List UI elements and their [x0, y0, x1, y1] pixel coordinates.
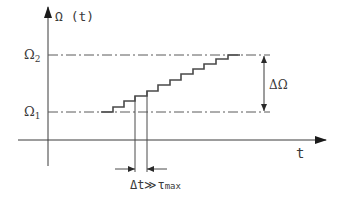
- delta-t-label: Δt≫τmax: [130, 178, 182, 192]
- delta-omega-label: ΔΩ: [269, 78, 288, 92]
- omega1-label: Ω1: [24, 104, 41, 121]
- y-axis-label: Ω (t): [55, 9, 94, 24]
- omega2-label: Ω2: [24, 47, 41, 64]
- x-axis-label: t: [296, 145, 304, 161]
- step-response-diagram: Ω (t) Ω2 Ω1 ΔΩ t Δt≫τmax: [0, 0, 341, 199]
- staircase-signal: [101, 55, 240, 112]
